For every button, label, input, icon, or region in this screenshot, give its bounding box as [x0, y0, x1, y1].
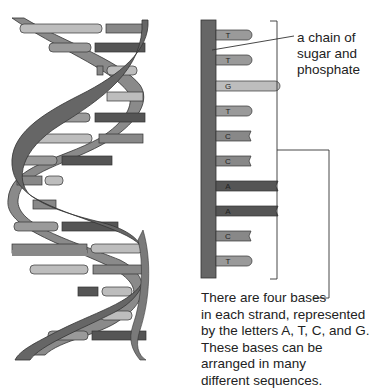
sugar-phosphate-backbone	[201, 20, 216, 278]
base-letter: T	[226, 107, 231, 116]
base-G: G	[216, 81, 280, 91]
bases-caption: There are four bases in each strand, rep…	[201, 290, 370, 389]
bases-caption-line: different sequences.	[201, 373, 370, 389]
base-letter: A	[225, 182, 231, 191]
base-C: C	[216, 131, 251, 141]
base-T: T	[216, 106, 252, 116]
base-letter: T	[226, 31, 231, 40]
bases-caption-line: arranged in many	[201, 356, 370, 373]
chain-label-line: a chain of	[297, 30, 360, 46]
base-letter: C	[225, 232, 231, 241]
base-T: T	[216, 30, 252, 40]
bases-bracket	[270, 21, 277, 279]
chain-label-line: phosphate	[297, 62, 360, 78]
base-T: T	[216, 55, 252, 65]
base-A: A	[216, 206, 278, 216]
base-letter: T	[226, 56, 231, 65]
base-letter: T	[226, 257, 231, 266]
bases-caption-line: These bases can be	[201, 340, 370, 357]
strand-bases: TTGTCCAACT	[216, 30, 280, 266]
chain-label: a chain of sugar and phosphate	[297, 30, 360, 78]
base-C: C	[216, 156, 251, 166]
bases-connector-line	[277, 150, 329, 298]
chain-label-line: sugar and	[297, 46, 360, 62]
base-T: T	[216, 256, 252, 266]
base-letter: C	[225, 132, 231, 141]
base-letter: C	[225, 157, 231, 166]
bases-caption-line: in each strand, represented	[201, 307, 370, 324]
base-letter: A	[225, 207, 231, 216]
base-A: A	[216, 181, 278, 191]
bases-caption-line: by the letters A, T, C, and G.	[201, 323, 370, 340]
base-C: C	[216, 231, 251, 241]
base-letter: G	[225, 82, 231, 91]
bases-caption-line: There are four bases	[201, 290, 370, 307]
